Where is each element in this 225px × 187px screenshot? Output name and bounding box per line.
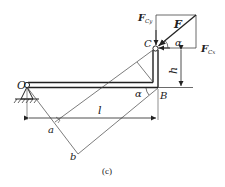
- label-l: l: [98, 104, 102, 117]
- label-b: b: [70, 151, 76, 162]
- line-bB: [78, 88, 158, 154]
- label-C: C: [144, 38, 152, 49]
- lever-beam: [28, 83, 158, 88]
- label-O: O: [17, 79, 26, 92]
- label-alpha-top: α: [175, 37, 182, 48]
- label-a: a: [48, 124, 54, 135]
- label-F-Cy: F Cy: [137, 12, 153, 25]
- label-F-Cx: F Cx: [200, 43, 216, 55]
- vertical-arm: [153, 50, 158, 88]
- angle-arc-bottom: [146, 88, 149, 95]
- label-B: B: [159, 90, 167, 101]
- label-alpha-bottom: α: [135, 88, 142, 99]
- svg-text:Cy: Cy: [145, 18, 153, 25]
- label-F: F: [173, 18, 183, 31]
- pin-C: [153, 46, 158, 51]
- perpendicular-Ob: [27, 87, 78, 154]
- figure-caption: (c): [102, 166, 112, 176]
- angle-arc-top: [165, 41, 168, 49]
- lever-force-diagram: O B C a b l h α α F F Cy F Cx (c): [0, 0, 225, 187]
- inner-perpendicular: [137, 62, 153, 82]
- line-of-action-Ca: [55, 50, 153, 122]
- label-h: h: [167, 67, 180, 74]
- svg-text:Cx: Cx: [208, 49, 216, 55]
